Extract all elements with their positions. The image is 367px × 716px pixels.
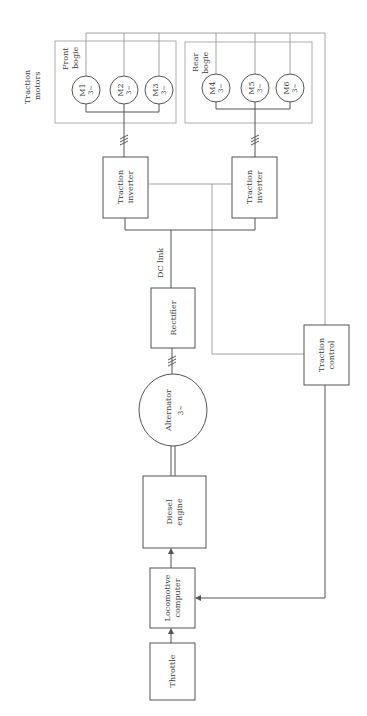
- svg-text:3~: 3~: [125, 85, 133, 95]
- svg-text:Diesel: Diesel: [165, 499, 174, 525]
- front-motor-bus: [86, 104, 159, 112]
- svg-text:3~: 3~: [217, 83, 225, 93]
- svg-text:M5: M5: [247, 81, 256, 94]
- motor-m1: M1 3~: [72, 76, 100, 104]
- traction-control-block: Traction control: [304, 325, 349, 385]
- motor-m4: M4 3~: [202, 74, 230, 102]
- svg-text:Traction: Traction: [23, 70, 32, 104]
- svg-text:3~: 3~: [291, 83, 299, 93]
- rectifier-block: Rectifier: [151, 288, 195, 348]
- svg-text:engine: engine: [175, 498, 184, 526]
- svg-text:3~: 3~: [256, 83, 264, 93]
- svg-text:Traction: Traction: [245, 170, 254, 204]
- dc-bus: [125, 218, 255, 230]
- svg-text:Traction: Traction: [317, 338, 326, 372]
- svg-text:M1: M1: [78, 83, 87, 96]
- svg-text:M4: M4: [208, 81, 217, 94]
- traction-inverter-front: Traction inverter: [103, 157, 148, 218]
- svg-text:3~: 3~: [177, 405, 185, 415]
- svg-text:Traction: Traction: [116, 170, 125, 204]
- svg-text:DC link: DC link: [156, 248, 165, 278]
- mechanical-shaft: [171, 446, 175, 476]
- motor-m3: M3 3~: [145, 76, 173, 104]
- svg-text:M6: M6: [282, 81, 291, 94]
- motor-m6: M6 3~: [276, 74, 304, 102]
- traction-motors-label: Traction motors: [23, 70, 42, 104]
- three-phase-marker-front: [120, 135, 128, 145]
- svg-text:Rectifier: Rectifier: [169, 300, 178, 335]
- svg-text:Alternator: Alternator: [164, 389, 173, 432]
- svg-text:computer: computer: [173, 578, 182, 617]
- diesel-engine-block: Diesel engine: [143, 476, 206, 548]
- svg-text:bogie: bogie: [201, 51, 210, 74]
- svg-text:3~: 3~: [160, 85, 168, 95]
- alternator: Alternator 3~: [139, 374, 207, 446]
- svg-text:inverter: inverter: [255, 171, 264, 204]
- throttle-block: Throttle: [150, 643, 195, 700]
- traction-control-to-computer-arrow: [196, 385, 325, 598]
- rear-motor-bus: [216, 102, 290, 109]
- locomotive-computer-block: Locomotive computer: [150, 568, 195, 628]
- motor-m5: M5 3~: [241, 74, 269, 102]
- motor-m2: M2 3~: [110, 76, 138, 104]
- svg-text:inverter: inverter: [126, 171, 135, 204]
- traction-system-diagram: Traction motors Front bogie Rear bogie M…: [0, 0, 367, 716]
- front-bogie-label: Front bogie: [61, 46, 80, 70]
- svg-text:motors: motors: [33, 72, 42, 100]
- three-phase-marker-rear: [251, 135, 259, 145]
- svg-text:Throttle: Throttle: [168, 654, 177, 687]
- svg-text:Locomotive: Locomotive: [163, 574, 172, 621]
- traction-inverter-rear: Traction inverter: [232, 157, 277, 218]
- svg-text:Front: Front: [61, 47, 70, 70]
- svg-text:M2: M2: [116, 83, 125, 96]
- svg-text:3~: 3~: [87, 85, 95, 95]
- svg-text:Rear: Rear: [191, 52, 200, 72]
- rear-bogie-label: Rear bogie: [191, 51, 210, 74]
- three-phase-marker-alternator: [168, 356, 176, 366]
- dc-link-label: DC link: [156, 248, 165, 278]
- svg-text:bogie: bogie: [71, 46, 80, 69]
- svg-text:control: control: [327, 340, 336, 369]
- svg-text:M3: M3: [151, 83, 160, 96]
